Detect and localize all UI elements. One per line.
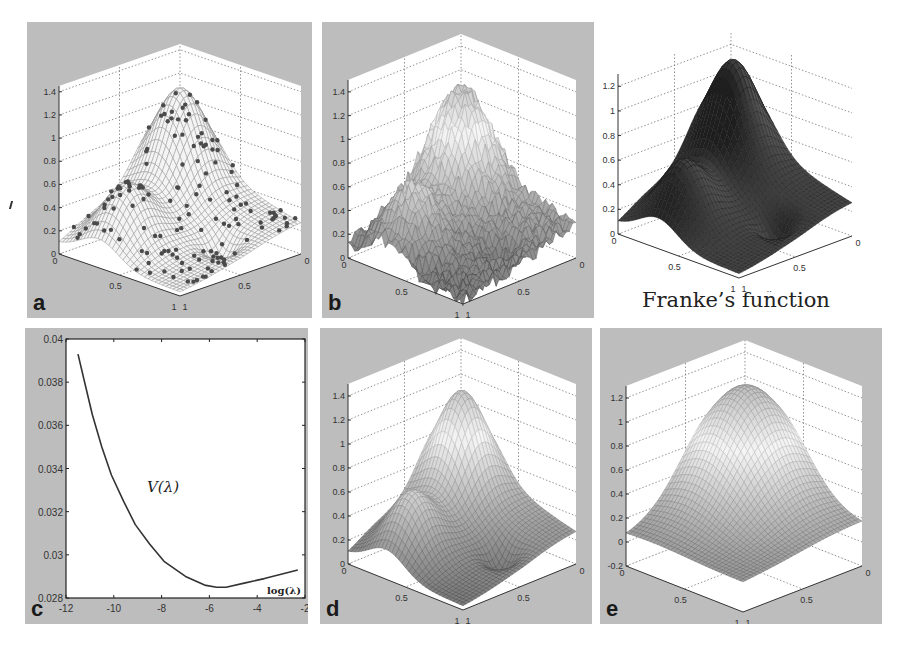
svg-text:0.8: 0.8: [332, 158, 345, 168]
panel-d-letter: d: [326, 598, 339, 620]
panel-a-plot: 00.20.40.60.811.21.400.5110.50: [27, 22, 312, 318]
panel-b-plot: 00.20.40.60.811.21.400.5110.50: [322, 22, 594, 318]
svg-text:0: 0: [865, 568, 870, 578]
svg-text:0.5: 0.5: [674, 595, 687, 605]
svg-text:1: 1: [465, 616, 470, 624]
svg-text:1: 1: [340, 439, 345, 449]
svg-text:0.5: 0.5: [517, 287, 530, 297]
panel-e-surface: -0.200.20.40.60.811.200.5110.50 e: [600, 328, 882, 624]
svg-text:0.036: 0.036: [38, 420, 63, 431]
svg-text:1.4: 1.4: [43, 87, 56, 97]
panel-d-surface: 00.20.40.60.811.21.400.5110.50 d: [320, 328, 592, 624]
svg-text:0: 0: [579, 566, 584, 576]
svg-text:1.2: 1.2: [610, 393, 623, 403]
svg-text:0.5: 0.5: [395, 593, 408, 603]
svg-text:0.5: 0.5: [668, 262, 681, 272]
svg-text:0.8: 0.8: [43, 156, 56, 166]
svg-text:0.6: 0.6: [332, 182, 345, 192]
panel-c-letter: c: [31, 598, 43, 620]
svg-text:0.5: 0.5: [109, 281, 122, 291]
svg-text:-2: -2: [301, 603, 308, 614]
svg-text:0.4: 0.4: [602, 180, 615, 190]
svg-text:0.2: 0.2: [602, 204, 615, 214]
curve-label: V(λ): [147, 478, 179, 496]
svg-text:0.8: 0.8: [602, 131, 615, 141]
svg-text:0.6: 0.6: [43, 179, 56, 189]
svg-text:0: 0: [619, 568, 624, 578]
svg-text:1: 1: [454, 616, 459, 624]
panel-a-letter: a: [33, 292, 45, 314]
svg-text:1: 1: [610, 106, 615, 116]
svg-text:1.2: 1.2: [602, 81, 615, 91]
svg-text:0.5: 0.5: [517, 593, 530, 603]
svg-text:0: 0: [611, 236, 616, 246]
svg-text:0.6: 0.6: [602, 155, 615, 165]
svg-text:1: 1: [182, 302, 187, 312]
franke-caption: Franke’s function: [642, 288, 830, 312]
svg-text:0: 0: [855, 238, 860, 248]
svg-text:0.4: 0.4: [332, 206, 345, 216]
svg-text:-10: -10: [107, 603, 122, 614]
svg-text:0.4: 0.4: [332, 511, 345, 521]
svg-text:0: 0: [579, 260, 584, 270]
svg-text:1.2: 1.2: [332, 111, 345, 121]
svg-text:0: 0: [341, 260, 346, 270]
panel-e-letter: e: [606, 598, 618, 620]
panel-franke-function: 00.20.40.60.811.200.5110.50yx Franke’s f…: [600, 22, 882, 318]
panel-franke-plot: 00.20.40.60.811.200.5110.50yx: [600, 22, 882, 292]
svg-text:0.04: 0.04: [44, 334, 64, 345]
svg-text:0.038: 0.038: [38, 377, 63, 388]
svg-text:-6: -6: [205, 603, 214, 614]
panel-a-surface-with-points: 00.20.40.60.811.21.400.5110.50 a: [27, 22, 312, 318]
svg-text:0: 0: [52, 256, 57, 266]
svg-text:0.032: 0.032: [38, 507, 63, 518]
svg-text:-4: -4: [253, 603, 262, 614]
svg-text:1: 1: [171, 302, 176, 312]
svg-text:1.4: 1.4: [332, 391, 345, 401]
svg-text:0.2: 0.2: [332, 535, 345, 545]
svg-text:0.2: 0.2: [43, 226, 56, 236]
svg-text:1: 1: [340, 134, 345, 144]
svg-text:0.8: 0.8: [610, 441, 623, 451]
svg-text:0: 0: [304, 256, 309, 266]
svg-text:0.6: 0.6: [332, 487, 345, 497]
svg-text:1.2: 1.2: [43, 110, 56, 120]
svg-text:0.4: 0.4: [610, 489, 623, 499]
svg-text:0: 0: [341, 566, 346, 576]
stray-mark: [9, 201, 13, 209]
svg-text:0.6: 0.6: [610, 465, 623, 475]
panel-b-surface: 00.20.40.60.811.21.400.5110.50 b: [322, 22, 594, 318]
svg-text:1: 1: [745, 618, 750, 624]
svg-text:1: 1: [465, 310, 470, 318]
svg-text:0.5: 0.5: [395, 287, 408, 297]
panel-c-line-chart: -12-10-8-6-4-20.0280.030.0320.0340.0360.…: [25, 328, 308, 624]
panel-e-plot: -0.200.20.40.60.811.200.5110.50: [600, 328, 882, 624]
svg-text:0.2: 0.2: [610, 513, 623, 523]
svg-text:-8: -8: [157, 603, 166, 614]
svg-text:-12: -12: [59, 603, 74, 614]
panel-c-plot: -12-10-8-6-4-20.0280.030.0320.0340.0360.…: [25, 328, 308, 624]
svg-text:0.03: 0.03: [44, 550, 64, 561]
svg-text:1.2: 1.2: [332, 415, 345, 425]
svg-text:0: 0: [618, 537, 623, 547]
svg-text:0.5: 0.5: [238, 281, 251, 291]
svg-text:0.2: 0.2: [332, 229, 345, 239]
svg-text:0.4: 0.4: [43, 203, 56, 213]
panel-b-letter: b: [328, 292, 341, 314]
svg-text:0.034: 0.034: [38, 464, 63, 475]
svg-text:0.8: 0.8: [332, 463, 345, 473]
x-axis-label: log(λ): [267, 585, 301, 596]
svg-text:0.5: 0.5: [800, 595, 813, 605]
svg-text:1: 1: [51, 133, 56, 143]
panel-d-plot: 00.20.40.60.811.21.400.5110.50: [320, 328, 592, 624]
svg-text:1: 1: [734, 618, 739, 624]
svg-text:1.4: 1.4: [332, 87, 345, 97]
svg-text:0.5: 0.5: [793, 263, 806, 273]
svg-text:1: 1: [618, 417, 623, 427]
svg-text:1: 1: [454, 310, 459, 318]
